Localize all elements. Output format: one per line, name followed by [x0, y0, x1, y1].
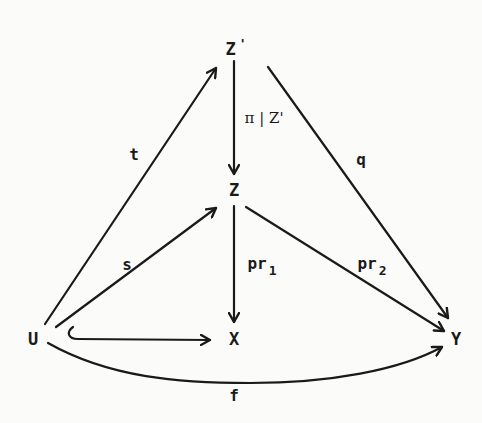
node-z-prime: Z' — [225, 37, 246, 58]
label-q: q — [356, 152, 366, 168]
label-pr2-text: pr — [357, 254, 376, 273]
label-pi-restrict: π | Z' — [244, 111, 283, 126]
label-f: f — [229, 388, 239, 404]
label-bar: | — [259, 109, 264, 127]
label-s-text: s — [122, 255, 132, 274]
label-f-text: f — [229, 386, 239, 405]
label-pr2: pr2 — [357, 256, 386, 277]
label-s: s — [122, 257, 132, 273]
node-z-prime-letter: Z — [225, 39, 235, 59]
node-z-letter: Z — [229, 180, 239, 200]
label-pr1-text: pr — [247, 254, 266, 273]
label-t: t — [129, 147, 139, 163]
arrow-inclusion-hook — [69, 327, 210, 340]
label-pr2-subscript: 2 — [379, 263, 387, 278]
label-q-text: q — [356, 150, 366, 169]
label-pi: π — [244, 109, 254, 127]
arrow-f — [48, 343, 442, 383]
node-y-letter: Y — [451, 329, 461, 349]
diagram-arrows — [0, 0, 482, 423]
arrow-s — [56, 208, 216, 327]
label-pr1: pr1 — [247, 256, 276, 277]
node-x: X — [229, 331, 239, 348]
prime-mark: ' — [239, 36, 247, 51]
arrow-q — [268, 67, 448, 318]
node-z: Z — [229, 182, 239, 199]
node-x-letter: X — [229, 329, 239, 349]
label-z-prime-sub: Z' — [269, 109, 284, 127]
node-y: Y — [451, 331, 461, 348]
arrow-t — [45, 68, 216, 324]
node-u: U — [28, 331, 38, 348]
node-u-letter: U — [28, 329, 38, 349]
label-pr1-subscript: 1 — [269, 263, 277, 278]
label-t-text: t — [129, 145, 139, 164]
